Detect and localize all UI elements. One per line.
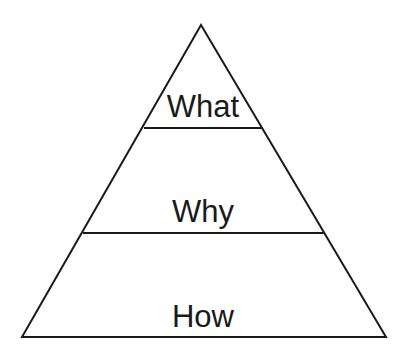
level-label-how: How bbox=[172, 299, 235, 334]
level-label-what: What bbox=[167, 89, 240, 124]
level-label-why: Why bbox=[172, 194, 235, 229]
pyramid-outline bbox=[22, 25, 386, 337]
pyramid-diagram: What Why How bbox=[0, 0, 416, 357]
